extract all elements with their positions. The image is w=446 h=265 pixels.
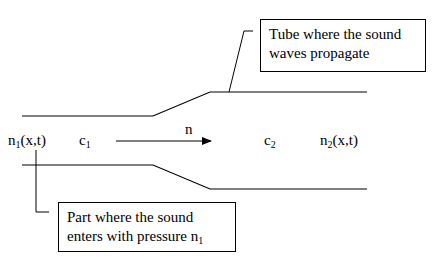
tube-callout-line1: Tube where the sound xyxy=(269,25,417,44)
label-n2: n2(x,t) xyxy=(320,132,358,149)
tube-bottom-wall xyxy=(22,165,367,189)
label-direction-n: n xyxy=(185,121,193,138)
label-c1: c1 xyxy=(79,132,91,149)
entry-callout: Part where the sound enters with pressur… xyxy=(58,202,236,252)
entry-callout-line1: Part where the sound xyxy=(67,208,227,227)
tube-callout: Tube where the sound waves propagate xyxy=(260,19,426,72)
tube-callout-connector xyxy=(229,31,253,92)
tube-top-wall xyxy=(22,92,367,116)
label-c2: c2 xyxy=(264,132,276,149)
entry-callout-line2: enters with pressure n1 xyxy=(67,227,227,246)
tube-callout-line2: waves propagate xyxy=(269,44,417,63)
label-n1: n1(x,t) xyxy=(8,132,46,149)
entry-callout-connector xyxy=(36,150,49,212)
